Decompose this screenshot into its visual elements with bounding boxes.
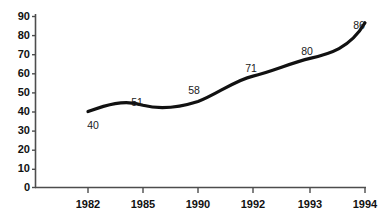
x-tick-label-1985: 1985 [123, 199, 163, 210]
y-tick-label-40: 40 [4, 106, 30, 117]
y-tick-label-60: 60 [4, 68, 30, 79]
y-tick-label-20: 20 [4, 144, 30, 155]
y-tick-label-30: 30 [4, 125, 30, 136]
y-tick-label-70: 70 [4, 49, 30, 60]
data-point-label-1994: 86 [348, 20, 370, 31]
x-tick-label-1994: 1994 [345, 199, 378, 210]
line-chart: 90 80 70 60 50 40 30 20 10 0 1982 1985 1… [0, 0, 378, 218]
x-tick-label-1982: 1982 [68, 199, 108, 210]
data-point-label-1990: 58 [183, 85, 205, 96]
data-point-label-1993: 80 [296, 46, 318, 57]
data-point-label-1992: 71 [240, 63, 262, 74]
x-tick-label-1993: 1993 [290, 199, 330, 210]
data-point-label-1982: 40 [82, 120, 104, 131]
y-tick-label-10: 10 [4, 163, 30, 174]
y-tick-label-0: 0 [4, 182, 30, 193]
x-tick-label-1990: 1990 [178, 199, 218, 210]
x-tick-label-1992: 1992 [233, 199, 273, 210]
y-tick-label-90: 90 [4, 11, 30, 22]
x-axis-ticks [88, 188, 365, 193]
data-point-label-1985: 51 [126, 97, 148, 108]
y-tick-label-50: 50 [4, 87, 30, 98]
y-tick-label-80: 80 [4, 30, 30, 41]
chart-plot-area [0, 0, 378, 218]
